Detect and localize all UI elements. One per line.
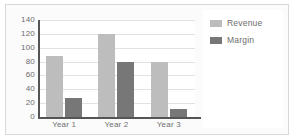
y-tick-label: 140 <box>21 16 35 24</box>
bar-chart-figure: 020406080100120140 Year 1Year 2Year 3 Re… <box>0 0 294 140</box>
bar-revenue-year-2[interactable] <box>98 34 115 117</box>
x-tick-label: Year 3 <box>149 120 189 129</box>
x-tick-label: Year 1 <box>44 120 84 129</box>
legend-label: Revenue <box>227 18 262 28</box>
y-tick-label: 60 <box>26 71 35 79</box>
plot-area <box>38 20 195 117</box>
bar-group <box>98 20 134 117</box>
y-tick-label: 100 <box>21 44 35 52</box>
y-axis-tick-labels: 020406080100120140 <box>13 20 35 117</box>
revenue-swatch <box>210 20 222 27</box>
bar-group <box>151 20 187 117</box>
bar-margin-year-1[interactable] <box>65 98 82 117</box>
y-tick-label: 120 <box>21 30 35 38</box>
bar-margin-year-3[interactable] <box>170 109 187 117</box>
x-tick-label: Year 2 <box>96 120 136 129</box>
plot-wrapper: 020406080100120140 Year 1Year 2Year 3 <box>13 10 198 132</box>
y-tick-label: 40 <box>26 85 35 93</box>
y-tick-label: 0 <box>30 113 35 121</box>
bar-revenue-year-3[interactable] <box>151 62 168 117</box>
y-tick-label: 20 <box>26 99 35 107</box>
bar-revenue-year-1[interactable] <box>46 56 63 117</box>
legend-item-revenue[interactable]: Revenue <box>210 18 283 28</box>
y-axis-line <box>38 20 40 118</box>
y-tick-label: 80 <box>26 58 35 66</box>
legend-label: Margin <box>227 35 254 45</box>
x-axis-tick-labels: Year 1Year 2Year 3 <box>38 120 195 129</box>
legend-item-margin[interactable]: Margin <box>210 35 283 45</box>
bar-groups <box>38 20 195 117</box>
margin-swatch <box>210 37 222 44</box>
x-axis-line <box>38 117 201 119</box>
bar-group <box>46 20 82 117</box>
bar-margin-year-2[interactable] <box>117 62 134 117</box>
chart-legend: RevenueMargin <box>203 10 283 128</box>
